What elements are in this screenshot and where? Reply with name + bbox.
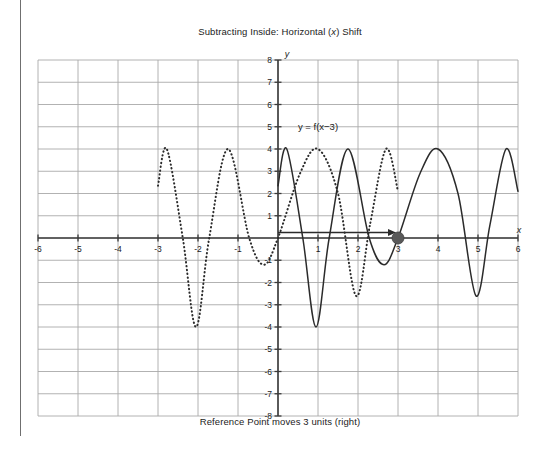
x-tick-label: -5 [74, 244, 82, 254]
chart-title: Subtracting Inside: Horizontal (x) Shift [0, 26, 560, 37]
reference-point-marker [392, 232, 404, 244]
x-axis-label: x [516, 225, 522, 235]
y-tick-label: 1 [267, 211, 272, 221]
y-tick-label: 3 [267, 166, 272, 176]
y-tick-label: 5 [267, 122, 272, 132]
x-tick-label: 5 [476, 244, 481, 254]
y-axis-label: y [284, 49, 290, 59]
y-tick-label: -4 [264, 322, 272, 332]
chart-caption: Reference Point moves 3 units (right) [0, 416, 560, 427]
figure-page: Subtracting Inside: Horizontal (x) Shift… [0, 0, 560, 460]
annotations: xyy = f(x−3) [278, 49, 522, 244]
y-tick-label: 2 [267, 189, 272, 199]
y-tick-label: -7 [264, 389, 272, 399]
x-tick-label: -6 [34, 244, 42, 254]
y-tick-label: -2 [264, 278, 272, 288]
y-tick-label: 7 [267, 77, 272, 87]
plot-area: -6-5-4-3-2-1123456 -8-7-6-5-4-3-2-112345… [38, 60, 518, 416]
x-tick-label: -2 [194, 244, 202, 254]
y-tick-label: -6 [264, 367, 272, 377]
x-tick-label: 1 [316, 244, 321, 254]
y-tick-label: 6 [267, 100, 272, 110]
y-tick-label: -3 [264, 300, 272, 310]
x-tick-label: -1 [234, 244, 242, 254]
y-tick-label: 8 [267, 55, 272, 65]
chart-title-suffix: ) Shift [336, 26, 362, 37]
function-label: y = f(x−3) [298, 121, 338, 132]
x-tick-label: -3 [154, 244, 162, 254]
x-tick-label: 3 [396, 244, 401, 254]
x-tick-label: 2 [356, 244, 361, 254]
x-tick-label: -4 [114, 244, 122, 254]
x-tick-label: 4 [436, 244, 441, 254]
chart-title-prefix: Subtracting Inside: Horizontal ( [198, 26, 331, 37]
page-margin-rule [20, 0, 21, 436]
chart-svg: -6-5-4-3-2-1123456 -8-7-6-5-4-3-2-112345… [38, 60, 518, 416]
y-tick-label: -5 [264, 344, 272, 354]
y-tick-label: 4 [267, 144, 272, 154]
x-tick-label: 6 [516, 244, 521, 254]
